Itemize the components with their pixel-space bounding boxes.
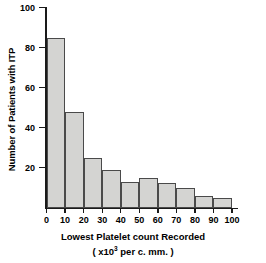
y-tick-label-40: 40 <box>5 123 35 133</box>
y-tick-100 <box>39 7 45 8</box>
x-tick-100 <box>231 208 232 213</box>
bar-0-10 <box>47 38 66 208</box>
bar-20-30 <box>84 158 103 208</box>
x-tick-30 <box>102 208 103 213</box>
y-tick-40 <box>39 127 45 128</box>
bar-40-50 <box>121 182 140 208</box>
x-tick-50 <box>139 208 140 213</box>
x-tick-80 <box>194 208 195 213</box>
x-tick-20 <box>83 208 84 213</box>
x-tick-40 <box>120 208 121 213</box>
y-tick-80 <box>39 47 45 48</box>
y-tick-20 <box>39 167 45 168</box>
y-tick-label-100: 100 <box>5 3 35 13</box>
bar-80-90 <box>195 196 214 208</box>
x-units-suffix: per c. mm. ) <box>118 246 174 257</box>
bar-50-60 <box>139 178 158 208</box>
bar-30-40 <box>102 170 121 208</box>
y-tick-label-80: 80 <box>5 43 35 53</box>
x-axis-title-units: ( x103 per c. mm. ) <box>0 245 266 257</box>
x-units-prefix: ( x10 <box>92 246 114 257</box>
bar-60-70 <box>158 183 177 208</box>
histogram-chart: Number of Patients with ITP 20406080100 … <box>0 0 266 263</box>
x-axis-line <box>45 208 238 210</box>
x-tick-90 <box>213 208 214 213</box>
bar-70-80 <box>176 188 195 208</box>
y-tick-label-20: 20 <box>5 163 35 173</box>
bar-10-20 <box>65 112 84 208</box>
x-tick-60 <box>157 208 158 213</box>
x-tick-10 <box>64 208 65 213</box>
y-tick-60 <box>39 87 45 88</box>
bar-90-100 <box>213 198 232 208</box>
y-tick-label-60: 60 <box>5 83 35 93</box>
x-tick-label-100: 100 <box>220 215 244 225</box>
x-tick-0 <box>46 208 47 213</box>
x-axis-title: Lowest Platelet count Recorded <box>0 231 266 242</box>
x-tick-70 <box>176 208 177 213</box>
